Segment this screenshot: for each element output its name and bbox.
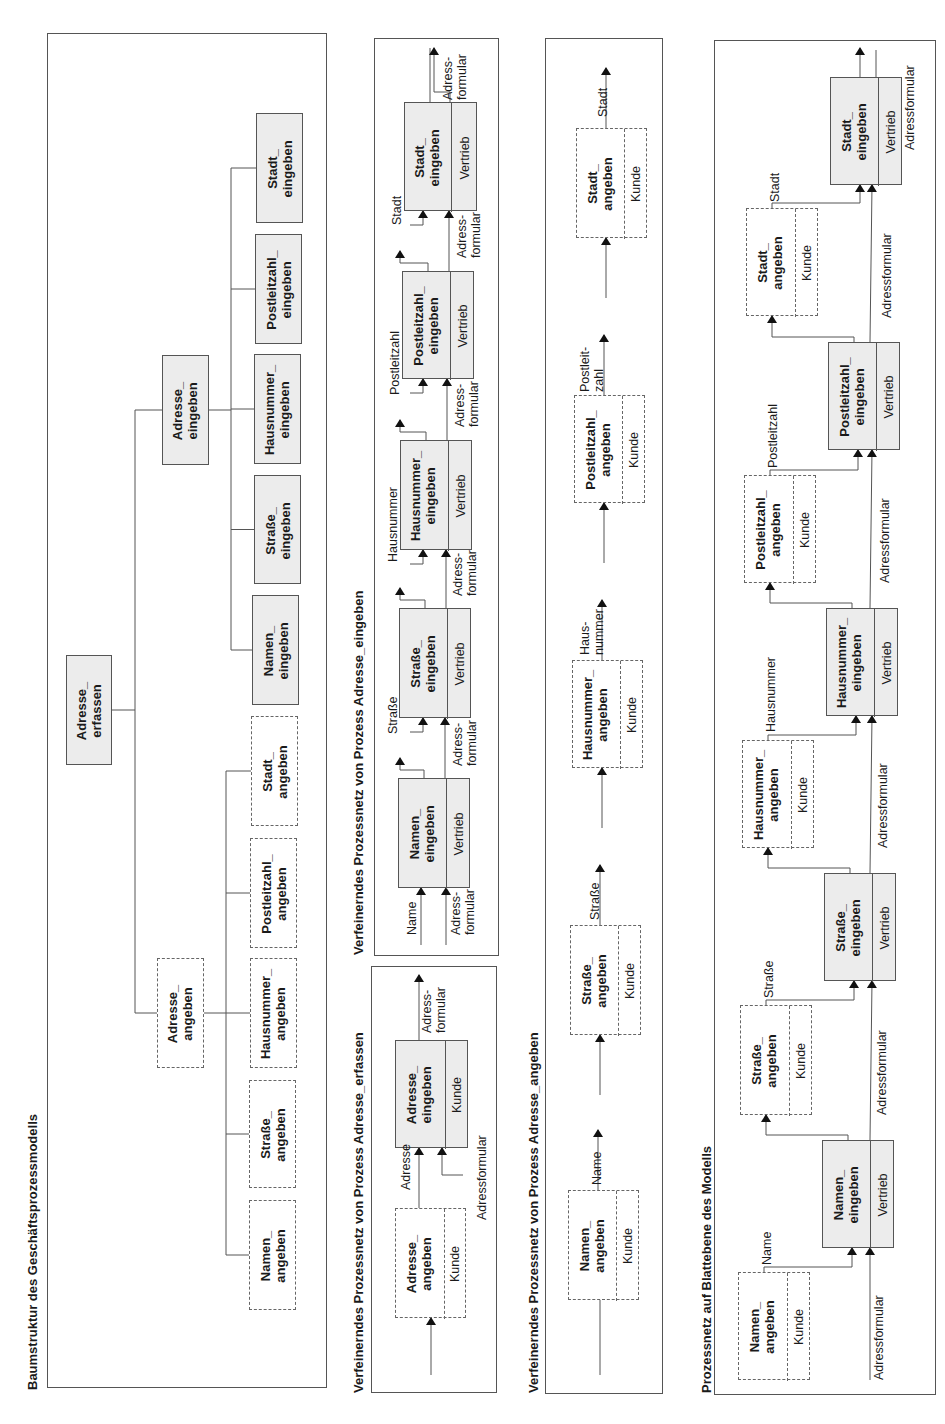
process-name: Stadt_angeben [586,157,616,210]
process-box-adresse-eingeben: Adresse_eingebenKunde [395,1040,468,1148]
process-name: Hausnummer_angeben [752,750,782,840]
flow-label-adressformular: Adressformular [876,763,890,848]
process-name: Stadt_eingeben [413,129,443,186]
process-box-hausnummer-eingeben: Hausnummer_eingeben [254,354,301,464]
flow-label-adress-formular: Adress-formular [455,212,483,258]
process-name: Hausnummer_angeben [582,670,612,760]
role-label: Vertrieb [453,642,467,685]
flow-label-postleitzahl: Postleitzahl [388,331,402,395]
role-label: Vertrieb [876,1173,890,1216]
process-box-namen-angeben: Namen_angebenKunde [738,1272,810,1380]
process-box-stadt-angeben: Stadt_angeben [251,716,298,826]
process-name: Straße_eingeben [409,635,439,692]
flow-label-adressformular: Adressformular [875,1030,889,1115]
flow-label-name: Name [760,1232,774,1265]
process-name: Stadt_angeben [261,745,291,798]
process-box-strasse-angeben: Straße_angeben [249,1080,296,1188]
role-label: Kunde [450,1077,464,1113]
process-name: Adresse_eingeben [406,1066,436,1125]
process-name: Namen_angeben [259,1229,289,1282]
flow-label-adress-formular: Adress-formular [441,54,469,100]
process-box-hausnummer-angeben: Hausnummer_angebenKunde [572,660,643,768]
role-label: Kunde [625,697,639,733]
process-name: Postleitzahl_eingeben [412,286,442,365]
role-label: Vertrieb [880,641,894,684]
diagram-canvas: Baumstruktur des Geschäftsprozessmodells… [0,0,945,1424]
process-box-strasse-angeben: Straße_angebenKunde [740,1005,812,1115]
role-label: Vertrieb [878,906,892,949]
process-box-adresse-angeben: Adresse_angeben [157,958,204,1068]
flow-label-stadt: Stadt [768,173,782,202]
process-name: Straße_eingeben [264,502,294,559]
process-box-stadt-eingeben: Stadt_eingeben [256,113,303,223]
process-box-strasse-eingeben: Straße_eingebenVertrieb [399,608,471,718]
role-label: Kunde [794,1043,808,1079]
process-name: Adresse_angeben [405,1235,435,1294]
process-box-postleitzahl-eingeben: Postleitzahl_eingebenVertrieb [402,271,474,379]
process-name: Postleitzahl_eingeben [265,250,295,329]
process-box-postleitzahl-angeben: Postleitzahl_angebenKunde [744,475,816,583]
title-net-eingeben: Verfeinerndes Prozessnetz von Prozess Ad… [352,591,367,955]
flow-label-name: Name [405,902,419,935]
flow-label-stadt: Stadt [390,196,404,225]
process-name: Hausnummer_angeben [260,969,290,1059]
title-net-angeben: Verfeinerndes Prozessnetz von Prozess Ad… [527,1032,542,1393]
flow-label-adress-formular: Adress-formular [453,381,481,427]
process-name: Postleitzahl_angeben [584,410,614,489]
flow-label-name: Name [590,1152,604,1185]
process-name: Namen_eingeben [408,805,438,862]
process-box-postleitzahl-eingeben: Postleitzahl_eingebenVertrieb [828,342,900,450]
process-box-namen-eingeben: Namen_eingebenVertrieb [822,1140,894,1248]
role-label: Kunde [449,1246,463,1282]
flow-label-stadt: Stadt [596,88,610,117]
flow-label-adressformular: Adressformular [880,233,894,318]
process-name: Namen_angeben [578,1219,608,1272]
flow-label-adressformular: Adressformular [903,65,917,150]
process-box-hausnummer-eingeben: Hausnummer_eingebenVertrieb [400,440,472,550]
role-label: Kunde [629,166,643,202]
flow-label-hausnummer: Hausnummer [764,657,778,732]
process-box-hausnummer-eingeben: Hausnummer_eingebenVertrieb [826,608,898,716]
process-name: Straße_angeben [259,1108,289,1161]
flow-label-adress-formular: Adress-formular [449,889,477,935]
flow-label-postleit-zahl: Postleit-zahl [578,347,606,392]
process-name: Postleitzahl_angeben [260,854,290,933]
process-box-adresse-eingeben: Adresse_eingeben [162,355,209,465]
flow-label-adressformular: Adressformular [872,1295,886,1380]
role-label: Kunde [798,512,812,548]
role-label: Kunde [627,432,641,468]
process-box-postleitzahl-angeben: Postleitzahl_angebenKunde [574,395,645,503]
process-box-hausnummer-angeben: Hausnummer_angeben [250,958,297,1068]
process-box-namen-eingeben: Namen_eingebenVertrieb [398,778,470,888]
process-name: Postleitzahl_angeben [754,490,784,569]
flow-label-adress-formular: Adress-formular [451,550,479,596]
role-label: Vertrieb [456,304,470,347]
process-name: Hausnummer_eingeben [836,618,866,708]
role-label: Vertrieb [458,136,472,179]
flow-label-adress-formular: Adress-formular [451,720,479,766]
process-box-stadt-angeben: Stadt_angebenKunde [746,208,818,316]
process-box-adresse-erfassen: Adresse_erfassen [66,655,112,765]
process-name: Namen_angeben [748,1300,778,1353]
process-name: Stadt_eingeben [840,103,870,160]
process-name: Hausnummer_eingeben [410,451,440,541]
process-box-strasse-eingeben: Straße_eingebenVertrieb [824,873,896,981]
process-name: Straße_angeben [750,1034,780,1087]
process-name: Straße_eingeben [834,899,864,956]
process-name: Namen_eingeben [832,1166,862,1223]
process-box-postleitzahl-angeben: Postleitzahl_angeben [250,838,297,948]
process-name: Adresse_angeben [167,985,197,1044]
process-name: Stadt_angeben [756,236,786,289]
role-label: Kunde [796,777,810,813]
title-net-erfassen: Verfeinerndes Prozessnetz von Prozess Ad… [352,1032,367,1393]
process-name: Hausnummer_eingeben [264,365,294,455]
flow-label-haus-nummer: Haus-nummer [578,609,606,655]
flow-label-strasse: Straße [762,960,776,998]
flow-label-adresse: Adresse [399,1144,413,1190]
role-label: Vertrieb [452,812,466,855]
role-label: Vertrieb [454,474,468,517]
process-box-strasse-angeben: Straße_angebenKunde [570,925,641,1035]
title-net-blatt: Prozessnetz auf Blattebene des Modells [700,1146,715,1393]
process-box-postleitzahl-eingeben: Postleitzahl_eingeben [255,234,302,344]
role-label: Kunde [792,1309,806,1345]
